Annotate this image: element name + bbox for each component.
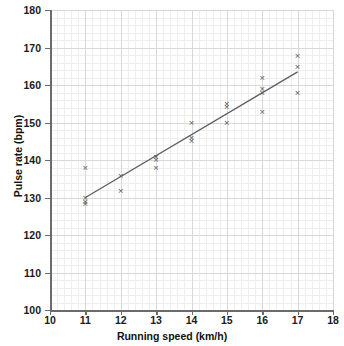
x-axis-title: Running speed (km/h) <box>0 330 344 342</box>
y-axis-title: Pulse rate (bpm) <box>12 76 24 236</box>
trend-line-segment <box>85 72 297 198</box>
trend-line <box>0 0 344 346</box>
scatter-chart: 101112131415161718 100110120130140150160… <box>0 0 344 346</box>
